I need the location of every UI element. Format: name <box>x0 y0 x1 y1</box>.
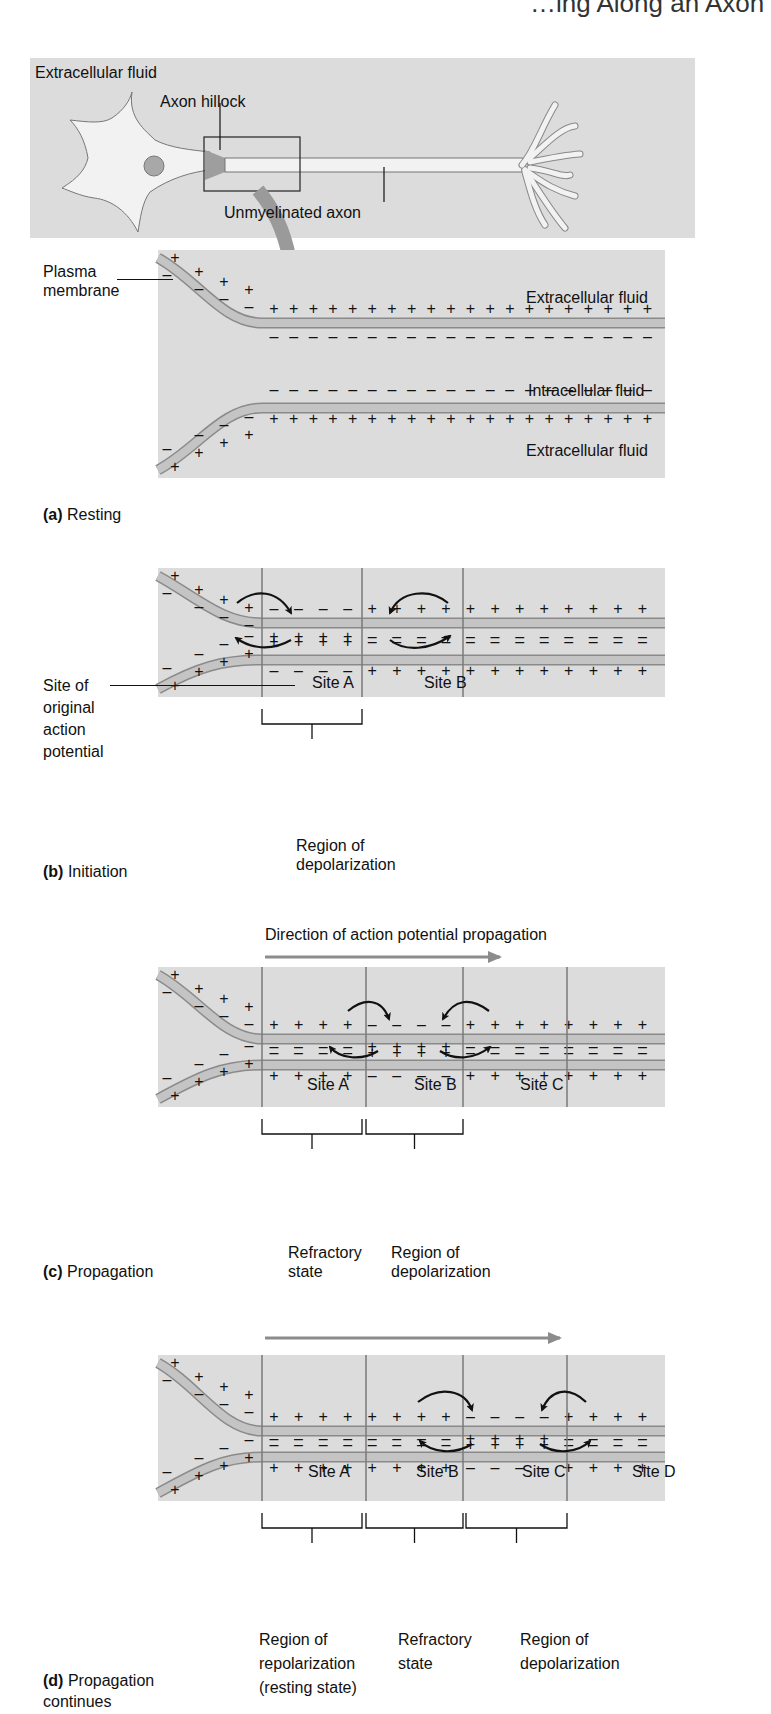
svg-text:+: + <box>564 1016 573 1033</box>
svg-text:+: + <box>194 263 203 280</box>
panel-d-bracket-repolarization: Region of repolarization (resting state) <box>259 1628 357 1700</box>
svg-text:+: + <box>348 300 357 317</box>
svg-text:+: + <box>515 600 524 617</box>
site-of-original-pointer <box>110 685 295 686</box>
panel-d-site-a: Site A <box>308 1462 350 1481</box>
svg-text:–: – <box>486 381 495 398</box>
svg-text:–: – <box>270 600 279 617</box>
svg-text:+: + <box>269 300 278 317</box>
svg-text:+: + <box>343 1408 352 1425</box>
svg-text:–: – <box>584 328 593 345</box>
svg-text:+: + <box>490 1430 499 1447</box>
site-of-original-ap-label: Site of original action potential <box>43 675 104 763</box>
svg-text:+: + <box>170 1354 179 1371</box>
svg-text:–: – <box>604 328 613 345</box>
svg-text:+: + <box>194 663 203 680</box>
svg-text:–: – <box>348 381 357 398</box>
svg-text:–: – <box>294 1430 303 1447</box>
svg-text:+: + <box>417 600 426 617</box>
panel-d-propagation-continues: +–+–+–+–+–+–+–+–+––++––++––++––++––++––+… <box>158 1338 665 1543</box>
svg-text:+: + <box>417 1408 426 1425</box>
svg-text:+: + <box>244 281 253 298</box>
svg-text:–: – <box>195 280 204 297</box>
svg-text:–: – <box>245 298 254 315</box>
svg-text:+: + <box>219 1378 228 1395</box>
svg-text:+: + <box>515 1430 524 1447</box>
svg-text:+: + <box>244 645 253 662</box>
panel-c-site-a: Site A <box>307 1075 349 1094</box>
svg-text:+: + <box>589 600 598 617</box>
svg-text:+: + <box>309 410 318 427</box>
svg-text:–: – <box>427 328 436 345</box>
plasma-membrane-label: Plasma membrane <box>43 262 119 300</box>
svg-text:–: – <box>328 381 337 398</box>
svg-text:–: – <box>319 1038 328 1055</box>
svg-text:+: + <box>294 1459 303 1476</box>
svg-text:–: – <box>343 1038 352 1055</box>
svg-text:–: – <box>309 381 318 398</box>
svg-text:+: + <box>219 273 228 290</box>
svg-text:+: + <box>466 600 475 617</box>
svg-text:+: + <box>589 1408 598 1425</box>
svg-text:+: + <box>328 300 337 317</box>
svg-text:+: + <box>368 410 377 427</box>
svg-text:+: + <box>170 567 179 584</box>
svg-text:–: – <box>309 328 318 345</box>
panel-b-site-a: Site A <box>312 673 354 692</box>
svg-text:+: + <box>194 581 203 598</box>
svg-text:–: – <box>368 633 377 650</box>
svg-text:–: – <box>195 1055 204 1072</box>
svg-text:–: – <box>466 328 475 345</box>
svg-text:–: – <box>220 1007 229 1024</box>
svg-text:+: + <box>194 444 203 461</box>
svg-text:–: – <box>486 328 495 345</box>
panel-d-site-b: Site B <box>416 1462 459 1481</box>
svg-text:–: – <box>387 328 396 345</box>
svg-text:–: – <box>195 645 204 662</box>
svg-text:–: – <box>505 328 514 345</box>
svg-text:–: – <box>589 1038 598 1055</box>
svg-text:–: – <box>491 1459 500 1476</box>
svg-text:–: – <box>163 584 172 601</box>
svg-text:–: – <box>368 1067 377 1084</box>
svg-text:+: + <box>613 600 622 617</box>
svg-text:+: + <box>309 300 318 317</box>
svg-text:–: – <box>392 1016 401 1033</box>
svg-text:+: + <box>348 410 357 427</box>
svg-text:–: – <box>392 1067 401 1084</box>
svg-text:+: + <box>638 600 647 617</box>
svg-text:–: – <box>245 627 254 644</box>
svg-text:+: + <box>466 1067 475 1084</box>
svg-text:+: + <box>446 300 455 317</box>
svg-text:+: + <box>219 990 228 1007</box>
svg-text:+: + <box>269 410 278 427</box>
svg-text:–: – <box>220 416 229 433</box>
svg-text:+: + <box>269 1459 278 1476</box>
plasma-membrane-pointer <box>117 279 173 280</box>
svg-text:+: + <box>525 410 534 427</box>
svg-text:–: – <box>245 1015 254 1032</box>
svg-text:–: – <box>270 328 279 345</box>
svg-text:–: – <box>540 633 549 650</box>
svg-text:–: – <box>525 328 534 345</box>
svg-text:–: – <box>623 328 632 345</box>
svg-text:–: – <box>343 1430 352 1447</box>
svg-text:–: – <box>348 328 357 345</box>
svg-text:+: + <box>219 434 228 451</box>
svg-text:+: + <box>407 300 416 317</box>
svg-text:+: + <box>368 1408 377 1425</box>
svg-text:+: + <box>269 1016 278 1033</box>
svg-text:–: – <box>270 381 279 398</box>
svg-text:–: – <box>466 1459 475 1476</box>
panel-b-site-b: Site B <box>424 673 467 692</box>
svg-text:–: – <box>220 608 229 625</box>
svg-text:–: – <box>589 633 598 650</box>
svg-text:–: – <box>195 997 204 1014</box>
svg-text:–: – <box>220 635 229 652</box>
svg-text:+: + <box>613 1067 622 1084</box>
svg-text:+: + <box>490 662 499 679</box>
svg-text:+: + <box>392 1038 401 1055</box>
svg-text:+: + <box>638 662 647 679</box>
svg-text:–: – <box>245 1403 254 1420</box>
panel-c-propagation: +–+–+–+–+–+–+–+–+––++––++––++––+–++––++–… <box>158 957 665 1149</box>
